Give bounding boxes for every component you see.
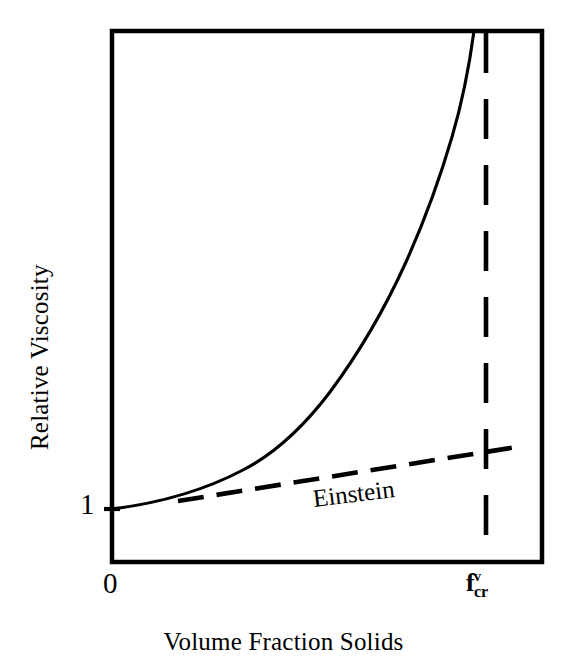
y-tick-label-one: 1 (80, 487, 95, 521)
x-tick-label-zero: 0 (103, 566, 118, 600)
x-tick-label-zero-text: 0 (103, 567, 118, 599)
y-axis-title: Relative Viscosity (20, 120, 60, 450)
x-tick-label-critical-superscript: v (474, 568, 481, 584)
x-tick-label-critical-fraction: fvcr (466, 568, 488, 598)
figure-container: Relative Viscosity Volume Fraction Solid… (0, 0, 567, 668)
y-tick-label-one-text: 1 (80, 488, 95, 520)
x-tick-label-critical-subscript: cr (474, 583, 488, 600)
y-axis-title-text: Relative Viscosity (26, 264, 53, 450)
suspension-viscosity-curve (112, 31, 474, 509)
x-axis-title: Volume Fraction Solids (0, 628, 567, 656)
x-axis-title-text: Volume Fraction Solids (163, 628, 403, 655)
